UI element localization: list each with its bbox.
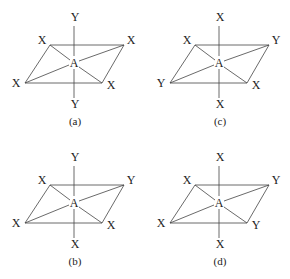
- ligand-top-label: Y: [71, 10, 80, 24]
- structure-c: AXXXYYX(c): [157, 10, 281, 128]
- bond-back-right: [224, 45, 269, 61]
- ligand-front-right-label: X: [252, 78, 261, 92]
- central-atom-label: A: [70, 196, 79, 210]
- ligand-back-right-label: Y: [272, 173, 281, 187]
- ligand-back-left-label: X: [38, 33, 47, 47]
- ligand-front-right-label: X: [107, 78, 116, 92]
- bond-front-right: [224, 207, 247, 223]
- ligand-front-right-label: X: [107, 218, 116, 232]
- bond-back-left: [195, 185, 215, 200]
- central-atom-label: A: [215, 56, 224, 70]
- ligand-front-left-label: Y: [157, 76, 166, 90]
- structure-caption: (c): [214, 115, 227, 128]
- ligand-front-left-label: X: [12, 76, 21, 90]
- bond-front-left: [25, 205, 69, 223]
- ligand-front-left-label: X: [157, 216, 166, 230]
- ligand-back-left-label: X: [183, 33, 192, 47]
- bond-back-right: [224, 185, 269, 201]
- bond-front-left: [170, 65, 214, 83]
- central-atom-label: A: [70, 56, 79, 70]
- ligand-back-right-label: X: [127, 33, 136, 47]
- bond-front-right: [224, 67, 247, 83]
- bond-back-right: [79, 185, 124, 201]
- ligand-top-label: Y: [71, 150, 80, 164]
- ligand-back-left-label: X: [183, 173, 192, 187]
- ligand-back-right-label: Y: [272, 33, 281, 47]
- structure-a: AYYXXXX(a): [12, 10, 136, 128]
- ligand-top-label: X: [216, 150, 225, 164]
- ligand-front-right-label: Y: [252, 218, 261, 232]
- ligand-bottom-label: Y: [71, 97, 80, 111]
- ligand-front-left-label: X: [12, 216, 21, 230]
- structure-caption: (d): [214, 255, 227, 268]
- structure-b: AYXXYXX(b): [12, 150, 136, 268]
- structure-d: AXXXYXY(d): [157, 150, 281, 268]
- octahedral-isomers-figure: AYYXXXX(a)AXXXYYX(c)AYXXYXX(b)AXXXYXY(d): [0, 0, 290, 279]
- bond-back-right: [79, 45, 124, 61]
- ligand-back-left-label: X: [38, 173, 47, 187]
- structure-caption: (a): [69, 115, 82, 128]
- ligand-top-label: X: [216, 10, 225, 24]
- ligand-bottom-label: X: [216, 97, 225, 111]
- central-atom-label: A: [215, 196, 224, 210]
- ligand-bottom-label: X: [71, 237, 80, 251]
- bond-front-right: [79, 67, 102, 83]
- bond-front-left: [25, 65, 69, 83]
- bond-back-left: [195, 45, 215, 60]
- bond-back-left: [50, 185, 70, 200]
- bond-front-right: [79, 207, 102, 223]
- ligand-back-right-label: Y: [127, 173, 136, 187]
- bond-front-left: [170, 205, 214, 223]
- structure-caption: (b): [69, 255, 82, 268]
- bond-back-left: [50, 45, 70, 60]
- ligand-bottom-label: X: [216, 237, 225, 251]
